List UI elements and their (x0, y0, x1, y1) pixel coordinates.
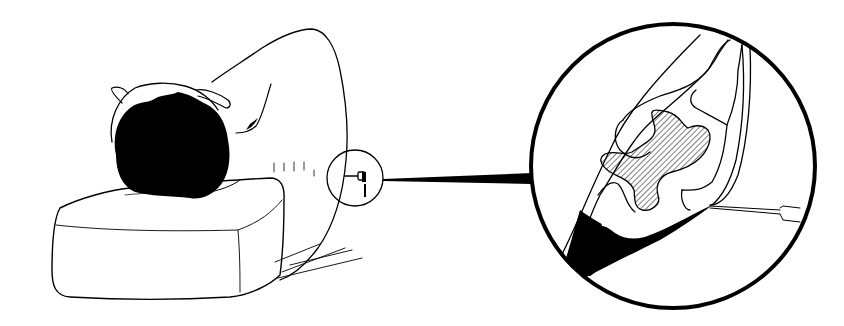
connector-line (383, 173, 532, 184)
puncture-site-circle (327, 150, 383, 206)
illustration (0, 0, 844, 326)
spinal-needle (710, 206, 800, 222)
skin-marks (274, 162, 314, 176)
lumbar-puncture-illustration (0, 0, 844, 326)
vertebra-hatched (601, 110, 710, 210)
magnified-detail-circle (531, 24, 815, 308)
patient-head (111, 83, 240, 198)
